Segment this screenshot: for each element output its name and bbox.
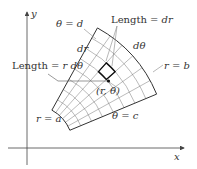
x-axis-label: x <box>174 152 180 162</box>
label-theta-d: θ = d <box>56 19 83 29</box>
label-length-dr-value: dr <box>162 14 173 25</box>
leader-length-dr-b <box>112 26 117 66</box>
highlighted-polar-rectangle <box>98 63 115 80</box>
leader-length-dr-a <box>106 26 117 61</box>
label-length-dr: Length = dr <box>111 15 173 25</box>
label-point: (r, θ) <box>96 86 120 96</box>
leader-length-rdtheta <box>48 74 58 81</box>
label-dtheta: dθ <box>133 41 145 51</box>
label-length-rdtheta: Length = r dθ <box>12 61 83 71</box>
point-r-theta <box>107 79 110 82</box>
label-length-rdtheta-value: r dθ <box>63 60 83 71</box>
polar-diagram: y x θ = d Length = dr dr dθ Length = r d… <box>0 0 197 169</box>
label-r-b: r = b <box>164 61 190 71</box>
leader-r-b <box>153 65 163 72</box>
label-dr: dr <box>77 44 88 54</box>
label-theta-c: θ = c <box>112 111 138 121</box>
label-r-a: r = a <box>36 114 61 124</box>
y-axis-label: y <box>31 9 37 19</box>
